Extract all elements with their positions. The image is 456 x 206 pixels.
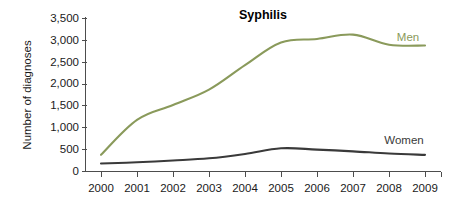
x-tick-label: 2001 bbox=[124, 182, 150, 194]
x-tick-label: 2008 bbox=[376, 182, 402, 194]
y-tick-label: 500 bbox=[60, 143, 79, 155]
series-label-men: Men bbox=[397, 31, 419, 43]
y-tick-label: 1,500 bbox=[50, 99, 79, 111]
syphilis-line-chart: Syphilis Number of diagnoses 3,500 3,000… bbox=[0, 0, 456, 206]
chart-canvas: Syphilis Number of diagnoses 3,500 3,000… bbox=[0, 0, 456, 206]
x-tick-label: 2002 bbox=[160, 182, 186, 194]
x-tick-label: 2004 bbox=[232, 182, 258, 194]
x-tick-label: 2007 bbox=[340, 182, 366, 194]
y-axis-title: Number of diagnoses bbox=[21, 40, 33, 150]
y-tick-label: 2,500 bbox=[50, 56, 79, 68]
y-tick-label: 3,000 bbox=[50, 34, 79, 46]
y-tick-label: 2,000 bbox=[50, 77, 79, 89]
y-tick-label: 3,500 bbox=[50, 12, 79, 24]
x-tick-label: 2003 bbox=[196, 182, 222, 194]
series-label-women: Women bbox=[384, 134, 423, 146]
x-tick-label: 2005 bbox=[268, 182, 294, 194]
x-tick-label: 2009 bbox=[412, 182, 438, 194]
x-tick-label: 2000 bbox=[88, 182, 114, 194]
y-tick-label: 1,000 bbox=[50, 121, 79, 133]
x-tick-label: 2006 bbox=[304, 182, 330, 194]
y-tick-label: 0 bbox=[73, 165, 79, 177]
chart-title: Syphilis bbox=[239, 8, 287, 22]
